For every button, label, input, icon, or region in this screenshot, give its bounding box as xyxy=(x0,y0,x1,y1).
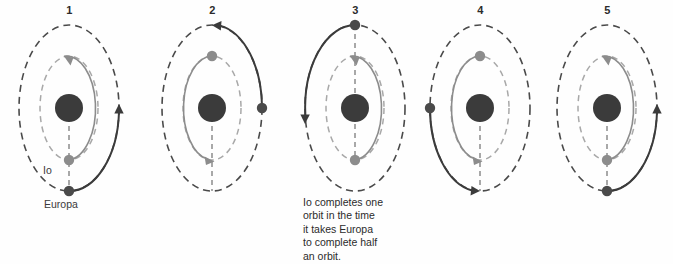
caption-line: an orbit. xyxy=(303,250,383,263)
europa-path-arrowhead xyxy=(212,21,222,31)
panel-5: 5 xyxy=(540,0,673,264)
europa-body xyxy=(602,186,612,196)
europa-path-arc xyxy=(220,26,262,108)
europa-path-arrowhead xyxy=(471,186,481,196)
panel-4-orbit-graphic xyxy=(413,0,548,264)
jupiter-body xyxy=(341,94,369,122)
europa-path-arc xyxy=(430,108,472,191)
panel-2: 2 xyxy=(145,0,280,264)
panel-4: 4 xyxy=(413,0,548,264)
caption-line: Io completes one xyxy=(303,196,383,209)
resonance-caption: Io completes one orbit in the time it ta… xyxy=(303,196,383,263)
io-body xyxy=(207,51,217,61)
jupiter-body xyxy=(198,94,226,122)
europa-body xyxy=(64,186,74,196)
caption-line: to complete half xyxy=(303,236,383,249)
europa-path-arrowhead xyxy=(652,104,661,114)
panel-2-orbit-graphic xyxy=(145,0,280,264)
panel-1: 1 Io Europa xyxy=(2,0,137,264)
jupiter-body xyxy=(55,94,83,122)
caption-line: it takes Europa xyxy=(303,223,383,236)
europa-body xyxy=(257,103,267,113)
europa-body xyxy=(425,103,435,113)
panel-1-orbit-graphic xyxy=(2,0,137,264)
io-body xyxy=(602,155,612,165)
europa-body xyxy=(350,20,360,30)
panel-5-orbit-graphic xyxy=(540,0,673,264)
panel-3: 3 Io completes one orbit in the time it … xyxy=(288,0,423,264)
io-body xyxy=(350,155,360,165)
io-label: Io xyxy=(43,164,52,176)
io-path-arrowhead xyxy=(205,157,215,166)
io-body xyxy=(475,51,485,61)
jupiter-body xyxy=(593,94,621,122)
caption-line: orbit in the time xyxy=(303,209,383,222)
europa-label: Europa xyxy=(44,198,78,210)
europa-path-arrowhead xyxy=(300,115,309,125)
diagram-canvas: 1 Io Europa 2 xyxy=(0,0,673,264)
io-path-arrowhead xyxy=(602,56,612,65)
jupiter-body xyxy=(466,94,494,122)
io-body xyxy=(64,155,74,165)
io-path-arrowhead xyxy=(64,56,74,65)
io-path-arrowhead xyxy=(473,157,483,166)
europa-path-arrowhead xyxy=(114,104,123,114)
